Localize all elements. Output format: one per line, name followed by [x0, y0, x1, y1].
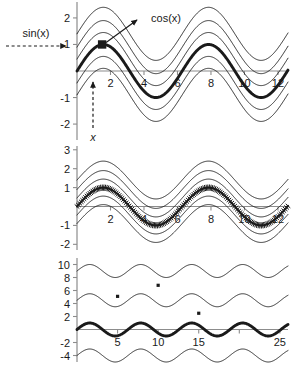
data-point-panel-bottom-0	[116, 295, 119, 298]
y-tick-label-panel-top-2: 2	[64, 12, 70, 24]
multi-panel-sine-figure: 2468101221-1-224681012321-1-251015251086…	[0, 0, 291, 366]
y-tick-label-panel-middle-1: 1	[64, 182, 70, 194]
x-tick-label-panel-middle-8: 8	[208, 213, 214, 225]
sin-annotation-label: sin(x)	[23, 27, 50, 39]
chart-panel-panel-middle: 24681012321-1-2	[60, 144, 290, 251]
data-point-panel-bottom-1	[157, 284, 160, 287]
x-tick-label-panel-bottom-15: 15	[193, 336, 205, 348]
curve-panel-bottom-3	[77, 349, 288, 362]
y-tick-label-panel-bottom-6: 6	[64, 285, 70, 297]
y-tick-label-panel-middle-2: 2	[64, 163, 70, 175]
x-tick-label-panel-top-2: 2	[107, 77, 113, 89]
y-tick-label-panel-middle--1: -1	[60, 219, 70, 231]
y-tick-label-panel-middle--2: -2	[60, 238, 70, 250]
x-annotation-label: x	[89, 131, 96, 143]
x-tick-label-panel-bottom-10: 10	[152, 336, 164, 348]
curve-panel-bottom-1	[77, 294, 288, 307]
chart-panel-panel-bottom: 5101525108642-2-4	[58, 258, 288, 362]
x-tick-label-panel-bottom-25: 25	[274, 336, 286, 348]
data-point-panel-bottom-2	[197, 312, 200, 315]
y-tick-label-panel-bottom-8: 8	[64, 272, 70, 284]
y-tick-label-panel-bottom-10: 10	[58, 259, 70, 271]
figure-container: 2468101221-1-224681012321-1-251015251086…	[0, 0, 291, 366]
cos-annotation-label: cos(x)	[151, 12, 181, 24]
y-tick-label-panel-top--2: -2	[60, 118, 70, 130]
marker-point-panel-top	[98, 40, 106, 48]
y-tick-label-panel-top--1: -1	[60, 92, 70, 104]
annotation-layer: sin(x)cos(x)x	[6, 12, 181, 143]
x-tick-label-panel-middle-2: 2	[107, 213, 113, 225]
x-tick-label-panel-top-8: 8	[208, 77, 214, 89]
curve-panel-bottom-0	[77, 265, 288, 278]
y-tick-label-panel-middle-3: 3	[64, 144, 70, 156]
y-tick-label-panel-bottom--4: -4	[60, 350, 70, 362]
y-tick-label-panel-bottom--2: -2	[60, 337, 70, 349]
y-tick-label-panel-bottom-2: 2	[64, 311, 70, 323]
y-tick-label-panel-top-1: 1	[64, 38, 70, 50]
y-tick-label-panel-bottom-4: 4	[64, 298, 70, 310]
